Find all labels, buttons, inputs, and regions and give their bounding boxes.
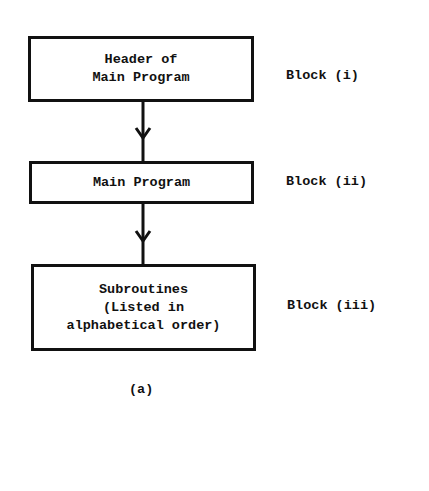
block-ii-label: Block (ii) (286, 174, 367, 189)
main-program-box: Main Program (29, 161, 254, 204)
block-iii-label: Block (iii) (287, 298, 376, 313)
subroutines-box: Subroutines (Listed in alphabetical orde… (31, 264, 256, 351)
block-i-label: Block (i) (286, 68, 359, 83)
figure-caption: (a) (129, 382, 153, 397)
header-of-main-program-box: Header of Main Program (28, 36, 254, 102)
